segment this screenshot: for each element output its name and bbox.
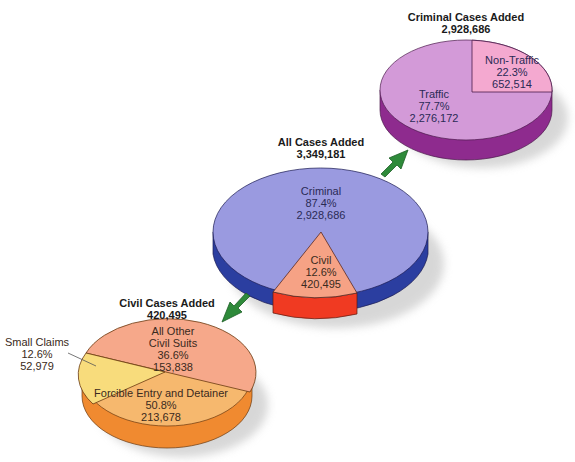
small-claims-percent: 12.6% bbox=[21, 348, 52, 360]
pie-diagram: Criminal Cases Added 2,928,686 Non-Traff… bbox=[0, 0, 575, 462]
all-cases-title: All Cases Added bbox=[278, 136, 364, 148]
traffic-value: 2,276,172 bbox=[410, 112, 459, 124]
small-claims-label: Small Claims bbox=[5, 336, 70, 348]
civil-cases-pie: Civil Cases Added 420,495 All Other Civi… bbox=[5, 297, 268, 457]
criminal-cases-title: Criminal Cases Added bbox=[408, 11, 524, 23]
forcible-entry-label: Forcible Entry and Detainer bbox=[94, 387, 228, 399]
civil-percent: 12.6% bbox=[305, 266, 336, 278]
other-civil-label-2: Civil Suits bbox=[149, 337, 198, 349]
non-traffic-percent: 22.3% bbox=[496, 66, 527, 78]
all-cases-total: 3,349,181 bbox=[297, 148, 346, 160]
criminal-cases-total: 2,928,686 bbox=[442, 23, 491, 35]
non-traffic-label: Non-Traffic bbox=[485, 54, 539, 66]
traffic-percent: 77.7% bbox=[418, 100, 449, 112]
arrow-to-criminal-icon bbox=[381, 150, 408, 177]
traffic-label: Traffic bbox=[419, 88, 449, 100]
civil-label: Civil bbox=[311, 254, 332, 266]
small-claims-value: 52,979 bbox=[20, 360, 54, 372]
criminal-percent: 87.4% bbox=[305, 197, 336, 209]
all-cases-pie: All Cases Added 3,349,181 Criminal 87.4%… bbox=[213, 136, 444, 328]
criminal-value: 2,928,686 bbox=[297, 209, 346, 221]
criminal-cases-pie: Criminal Cases Added 2,928,686 Non-Traff… bbox=[380, 11, 568, 168]
other-civil-percent: 36.6% bbox=[157, 349, 188, 361]
civil-cases-title: Civil Cases Added bbox=[119, 297, 215, 309]
forcible-entry-value: 213,678 bbox=[141, 411, 181, 423]
criminal-label: Criminal bbox=[301, 185, 341, 197]
civil-cases-total: 420,495 bbox=[147, 309, 187, 321]
forcible-entry-percent: 50.8% bbox=[145, 399, 176, 411]
civil-value: 420,495 bbox=[301, 278, 341, 290]
arrow-to-civil-icon bbox=[222, 293, 250, 322]
other-civil-value: 153,838 bbox=[153, 361, 193, 373]
non-traffic-value: 652,514 bbox=[492, 78, 532, 90]
other-civil-label-1: All Other bbox=[152, 325, 195, 337]
